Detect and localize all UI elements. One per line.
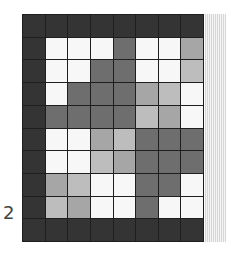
board-cell[interactable] bbox=[23, 174, 45, 196]
board-cell[interactable] bbox=[136, 106, 158, 128]
board-cell[interactable] bbox=[136, 15, 158, 37]
board-cell[interactable] bbox=[159, 174, 181, 196]
board-cell[interactable] bbox=[91, 15, 113, 37]
board-cell[interactable] bbox=[68, 38, 90, 60]
board-cell[interactable] bbox=[159, 106, 181, 128]
board-cell[interactable] bbox=[46, 106, 68, 128]
board-cell[interactable] bbox=[181, 106, 203, 128]
board-cell[interactable] bbox=[68, 174, 90, 196]
board-cell[interactable] bbox=[159, 129, 181, 151]
board-cell[interactable] bbox=[46, 60, 68, 82]
board-cell[interactable] bbox=[136, 151, 158, 173]
board-cell[interactable] bbox=[114, 151, 136, 173]
board-cell[interactable] bbox=[114, 197, 136, 219]
board-cell[interactable] bbox=[23, 15, 45, 37]
board-cell[interactable] bbox=[114, 38, 136, 60]
board-cell[interactable] bbox=[181, 219, 203, 241]
board-cell[interactable] bbox=[136, 197, 158, 219]
board-cell[interactable] bbox=[23, 151, 45, 173]
board-cell[interactable] bbox=[181, 129, 203, 151]
board-cell[interactable] bbox=[68, 83, 90, 105]
board-cell[interactable] bbox=[68, 151, 90, 173]
board-cell[interactable] bbox=[114, 106, 136, 128]
board-cell[interactable] bbox=[23, 83, 45, 105]
board-cell[interactable] bbox=[46, 174, 68, 196]
board-cell[interactable] bbox=[91, 174, 113, 196]
board-cell[interactable] bbox=[91, 106, 113, 128]
board-cell[interactable] bbox=[114, 174, 136, 196]
board-cell[interactable] bbox=[181, 151, 203, 173]
board-cell[interactable] bbox=[68, 106, 90, 128]
board-cell[interactable] bbox=[91, 38, 113, 60]
row-label: 2 bbox=[3, 203, 14, 223]
dotted-scroll-strip[interactable] bbox=[205, 14, 226, 242]
board-cell[interactable] bbox=[91, 129, 113, 151]
game-board-grid bbox=[22, 14, 204, 242]
board-cell[interactable] bbox=[91, 83, 113, 105]
board-cell[interactable] bbox=[46, 38, 68, 60]
board-cell[interactable] bbox=[46, 129, 68, 151]
board-cell[interactable] bbox=[159, 60, 181, 82]
board-cell[interactable] bbox=[68, 197, 90, 219]
board-cell[interactable] bbox=[159, 15, 181, 37]
board-cell[interactable] bbox=[159, 151, 181, 173]
board-cell[interactable] bbox=[68, 15, 90, 37]
board-cell[interactable] bbox=[23, 38, 45, 60]
board-cell[interactable] bbox=[114, 83, 136, 105]
board-cell[interactable] bbox=[114, 60, 136, 82]
board-cell[interactable] bbox=[91, 151, 113, 173]
board-cell[interactable] bbox=[136, 174, 158, 196]
board-cell[interactable] bbox=[46, 197, 68, 219]
board-cell[interactable] bbox=[23, 129, 45, 151]
board-cell[interactable] bbox=[91, 197, 113, 219]
board-cell[interactable] bbox=[114, 129, 136, 151]
board-cell[interactable] bbox=[181, 197, 203, 219]
board-cell[interactable] bbox=[114, 219, 136, 241]
board-cell[interactable] bbox=[159, 197, 181, 219]
board-cell[interactable] bbox=[136, 38, 158, 60]
board-cell[interactable] bbox=[68, 219, 90, 241]
board-cell[interactable] bbox=[91, 60, 113, 82]
board-cell[interactable] bbox=[23, 60, 45, 82]
board-cell[interactable] bbox=[181, 38, 203, 60]
board-cell[interactable] bbox=[23, 197, 45, 219]
board-cell[interactable] bbox=[91, 219, 113, 241]
board-cell[interactable] bbox=[159, 83, 181, 105]
board-cell[interactable] bbox=[181, 15, 203, 37]
board-cell[interactable] bbox=[114, 15, 136, 37]
board-cell[interactable] bbox=[159, 219, 181, 241]
board-cell[interactable] bbox=[159, 38, 181, 60]
board-cell[interactable] bbox=[46, 151, 68, 173]
board-cell[interactable] bbox=[136, 83, 158, 105]
board-cell[interactable] bbox=[46, 15, 68, 37]
board-cell[interactable] bbox=[46, 83, 68, 105]
board-cell[interactable] bbox=[136, 129, 158, 151]
board-cell[interactable] bbox=[181, 60, 203, 82]
board-cell[interactable] bbox=[136, 219, 158, 241]
board-cell[interactable] bbox=[68, 60, 90, 82]
board-cell[interactable] bbox=[46, 219, 68, 241]
board-cell[interactable] bbox=[68, 129, 90, 151]
board-cell[interactable] bbox=[181, 174, 203, 196]
board-cell[interactable] bbox=[23, 106, 45, 128]
board-cell[interactable] bbox=[181, 83, 203, 105]
board-cell[interactable] bbox=[136, 60, 158, 82]
board-cell[interactable] bbox=[23, 219, 45, 241]
